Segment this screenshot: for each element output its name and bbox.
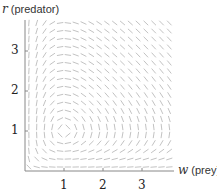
slope-segment [89, 108, 93, 113]
slope-segment [65, 78, 71, 79]
slope-segment [167, 69, 171, 74]
slope-segment [151, 149, 156, 153]
slope-segment [52, 124, 53, 130]
slope-segment [153, 116, 155, 122]
slope-segment [43, 44, 47, 49]
slope-segment [43, 60, 46, 65]
slope-segment [168, 100, 171, 106]
slope-segment [121, 92, 125, 97]
slope-segment [128, 45, 133, 49]
x-tick-3: 3 [138, 178, 146, 192]
slope-segment [143, 167, 149, 168]
slope-segment [43, 28, 47, 33]
slope-segment [50, 29, 55, 32]
slope-segment [43, 68, 46, 74]
slope-segment [129, 108, 132, 114]
slope-segment [160, 76, 164, 81]
slope-segment [169, 132, 170, 138]
slope-segment [81, 141, 86, 145]
slope-segment [144, 37, 149, 42]
slope-segment [42, 158, 48, 161]
slope-segment [112, 61, 117, 65]
slope-segment [128, 29, 133, 33]
slope-segment [137, 116, 139, 122]
slope-segment [161, 132, 162, 138]
slope-segment [57, 110, 63, 112]
slope-segment [43, 92, 46, 98]
slope-segment [50, 141, 54, 146]
slope-segments [27, 20, 173, 169]
slope-segment [50, 93, 55, 97]
slope-segment [73, 78, 79, 80]
slope-segment [50, 101, 54, 106]
slope-segment [97, 85, 102, 89]
slope-segment [81, 38, 87, 41]
slope-segment [136, 77, 140, 82]
slope-segment [138, 132, 139, 138]
slope-segment [36, 68, 38, 74]
slope-segment [135, 158, 141, 160]
slope-segment [73, 109, 78, 113]
slope-segment [144, 92, 148, 97]
slope-segment [34, 157, 38, 162]
slope-segment [145, 124, 146, 130]
y-tick-2: 2 [11, 83, 19, 97]
slope-segment [159, 53, 163, 58]
slope-segment [113, 140, 117, 145]
slope-segment [50, 45, 55, 48]
slope-segment [29, 28, 30, 34]
y-axis-unit: (predator) [11, 3, 59, 15]
slope-segment [135, 149, 140, 153]
slope-segment [89, 37, 94, 40]
slope-segment [120, 21, 125, 25]
slope-segment [120, 77, 124, 82]
slope-segment [81, 30, 87, 33]
slope-segment [44, 116, 45, 122]
y-axis-label: r (predator) [2, 2, 59, 16]
slope-segment [169, 124, 170, 130]
slope-segment [114, 124, 115, 130]
slope-segment [27, 165, 31, 170]
slope-segment [36, 108, 37, 114]
slope-segment [42, 149, 46, 154]
slope-segment [50, 77, 55, 81]
slope-segment [151, 158, 157, 160]
slope-segment [44, 132, 45, 138]
slope-segment [89, 69, 94, 73]
slope-segment [73, 117, 77, 122]
slope-segment [159, 37, 163, 42]
slope-segment [89, 93, 94, 97]
slope-segment [167, 149, 172, 153]
slope-segment [112, 21, 117, 25]
slope-segment [128, 92, 132, 97]
slope-segment [105, 108, 108, 113]
slope-segment [161, 116, 163, 122]
slope-segment [88, 150, 94, 152]
slope-segment [158, 158, 164, 160]
slope-segment [43, 140, 45, 146]
slope-segment [159, 149, 164, 153]
slope-segment [129, 140, 133, 145]
slope-segment [151, 21, 156, 25]
slope-segment [152, 100, 155, 106]
slope-segment [137, 108, 140, 114]
slope-segment [106, 124, 107, 130]
slope-segment [104, 149, 110, 152]
slope-segment [73, 141, 79, 144]
x-tick-2: 2 [99, 178, 107, 192]
slope-segment [151, 29, 156, 34]
slope-segment [167, 61, 171, 66]
slope-segment [152, 69, 156, 74]
slope-segment [80, 150, 86, 152]
slope-segment [29, 148, 30, 154]
slope-segment [144, 61, 148, 66]
slope-segment [81, 109, 85, 114]
slope-segment [113, 108, 116, 114]
slope-segment [98, 132, 99, 138]
slope-segment [43, 52, 46, 57]
slope-segment [152, 140, 155, 145]
slope-segment [57, 151, 63, 152]
slope-segment [88, 158, 94, 159]
slope-segment [73, 150, 79, 151]
slope-segment [96, 158, 102, 159]
